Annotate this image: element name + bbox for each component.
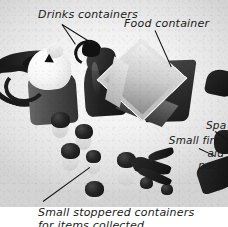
annotated-photo-figure: Drinks containers Food container Small f…	[0, 0, 228, 227]
vial-stopper	[161, 184, 173, 195]
vial-stopper	[86, 150, 101, 163]
label-small-first-aid-pack: Small first aid pack	[150, 134, 224, 172]
vial-stopper	[85, 181, 104, 197]
vial-stopper	[75, 124, 93, 139]
label-small-stoppered-containers: Small stoppered containers for items col…	[38, 206, 218, 227]
vial-stopper	[51, 112, 70, 128]
label-food-container: Food container	[124, 17, 209, 30]
label-spare-truncated: Spa	[206, 119, 228, 131]
label-drinks-containers: Drinks containers	[38, 8, 138, 21]
label-first-aid-line-1: Small first aid	[169, 134, 224, 159]
photograph-plate	[0, 0, 228, 207]
label-first-aid-line-2: pack	[198, 159, 224, 171]
edge-object-upper	[204, 67, 228, 99]
caption-line-2: for items collected	[38, 219, 144, 227]
vial-stopper	[61, 143, 80, 159]
caption-line-1: Small stoppered containers	[38, 206, 194, 219]
